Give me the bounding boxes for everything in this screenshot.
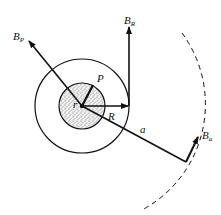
r-big-label-text: R [108, 110, 115, 122]
b-a-vector-arrow [186, 137, 198, 162]
b-a-label-main: B [202, 129, 209, 141]
b-p-label: BP [13, 27, 24, 44]
r-small-label-text: r [73, 98, 77, 110]
b-r-label-sub: R [131, 20, 135, 28]
a-radius-line [82, 106, 186, 162]
b-p-label-main: B [13, 30, 20, 42]
r-big-label: R [108, 107, 115, 123]
b-a-label: Ba [202, 126, 212, 143]
a-label-text: a [140, 123, 146, 135]
center-point [80, 104, 84, 108]
a-label: a [140, 120, 146, 136]
p-label-text: P [97, 72, 104, 84]
p-label: P [97, 69, 104, 85]
b-p-label-sub: P [20, 36, 24, 44]
b-r-label: BR [124, 11, 135, 28]
b-a-label-sub: a [209, 135, 213, 143]
b-r-label-main: B [124, 14, 131, 26]
dashed-orbit-arc [142, 33, 205, 210]
r-small-label: r [73, 95, 77, 111]
